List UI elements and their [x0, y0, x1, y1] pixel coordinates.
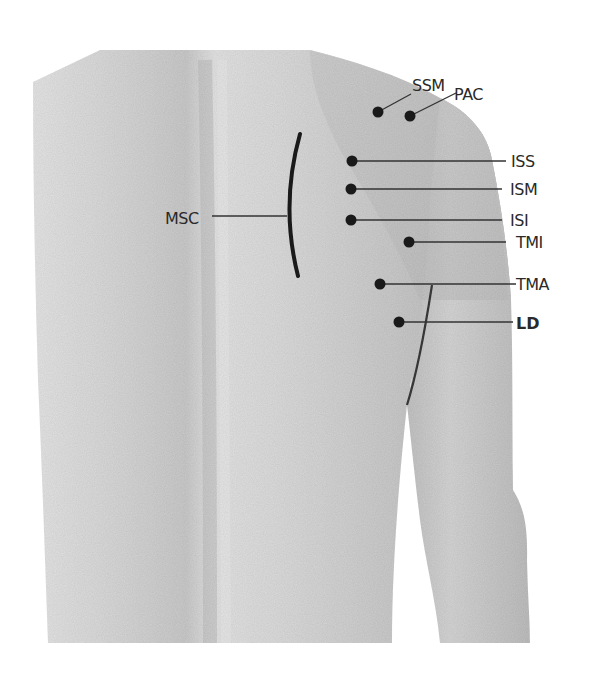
tmi-dot [404, 237, 415, 248]
tma-label: TMA [515, 275, 550, 294]
ld-label: LD [516, 314, 539, 333]
ld-dot [394, 317, 405, 328]
ism-dot [346, 184, 357, 195]
isi-label: ISI [510, 211, 528, 230]
ssm-dot [373, 107, 384, 118]
iss-label: ISS [511, 152, 535, 171]
isi-dot [346, 215, 357, 226]
tma-dot [375, 279, 386, 290]
anatomy-diagram: MSC SSM PAC ISS ISM ISI [0, 0, 603, 682]
pac-label: PAC [454, 85, 483, 104]
diagram-canvas: MSC SSM PAC ISS ISM ISI [0, 0, 603, 682]
pac-dot [405, 111, 416, 122]
ism-label: ISM [510, 180, 537, 199]
body-silhouette [33, 50, 530, 643]
ssm-label: SSM [412, 76, 445, 95]
spine-highlight [222, 60, 226, 643]
iss-dot [347, 156, 358, 167]
msc-label: MSC [165, 209, 199, 228]
tmi-label: TMI [515, 233, 543, 252]
spine-groove [205, 60, 210, 643]
